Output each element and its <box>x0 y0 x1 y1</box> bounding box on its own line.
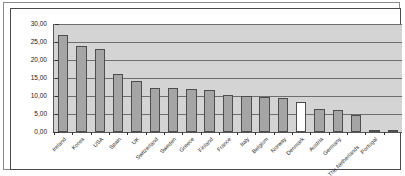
bar-slot <box>237 24 255 132</box>
x-label-slot: Finland <box>201 135 219 176</box>
bar-series <box>54 24 402 132</box>
bar <box>241 96 251 132</box>
bar <box>259 97 269 132</box>
y-tick-label: 0,00 <box>34 129 47 136</box>
y-tick-label: 30,00 <box>31 21 47 28</box>
bar <box>351 115 361 132</box>
x-label-slot: Belgium <box>255 135 273 176</box>
x-label-slot: Denmark <box>292 135 310 176</box>
chart-inner-frame: 30,0025,0020,0015,0010,005,000,00 Irelan… <box>10 8 401 170</box>
bar-slot <box>72 24 90 132</box>
bar <box>204 90 214 132</box>
bar-slot <box>164 24 182 132</box>
x-label-slot: USA <box>91 135 109 176</box>
y-tick-label: 15,00 <box>31 75 47 82</box>
bar-slot <box>219 24 237 132</box>
bar-slot <box>91 24 109 132</box>
bar <box>113 74 123 132</box>
y-tick-label: 10,00 <box>31 93 47 100</box>
bar-slot <box>146 24 164 132</box>
x-axis-labels: IrelandKoreaUSASpainUKSwitzerlandSwedenG… <box>54 135 402 176</box>
x-label-slot: Spain <box>109 135 127 176</box>
bar-slot <box>274 24 292 132</box>
y-tick-label: 5,00 <box>34 111 47 118</box>
x-label-slot: Ireland <box>54 135 72 176</box>
x-label-slot: The Netherlands <box>347 135 365 176</box>
bar <box>76 46 86 132</box>
x-tick-label: Ireland <box>51 136 67 152</box>
bar-slot <box>109 24 127 132</box>
bar <box>314 109 324 132</box>
x-label-slot: Sweden <box>164 135 182 176</box>
y-tick-label: 20,00 <box>31 57 47 64</box>
x-tick-label: Spain <box>108 136 122 150</box>
bar <box>223 95 233 132</box>
bar-slot <box>182 24 200 132</box>
bar <box>58 35 68 132</box>
x-label-slot: Switzerland <box>146 135 164 176</box>
bar <box>186 89 196 132</box>
bar <box>278 98 288 132</box>
x-label-slot: France <box>219 135 237 176</box>
chart-outer-frame: 30,0025,0020,0015,0010,005,000,00 Irelan… <box>3 2 400 170</box>
x-label-slot: Korea <box>72 135 90 176</box>
bar <box>95 49 105 132</box>
bar-slot <box>384 24 402 132</box>
x-label-slot: Italy <box>237 135 255 176</box>
bar-slot <box>255 24 273 132</box>
bar-slot <box>292 24 310 132</box>
x-tick-label: Italy <box>239 136 251 148</box>
bar-slot <box>347 24 365 132</box>
y-tick-label: 25,00 <box>31 39 47 46</box>
x-tick-label: UK <box>131 136 141 146</box>
x-tick-label: USA <box>92 136 104 148</box>
bar-slot <box>127 24 145 132</box>
bar-slot <box>365 24 383 132</box>
bar-slot <box>310 24 328 132</box>
bar-slot <box>201 24 219 132</box>
x-label-slot: Portugal <box>365 135 383 176</box>
y-axis: 30,0025,0020,0015,0010,005,000,00 <box>17 24 51 132</box>
x-label-slot <box>384 135 402 176</box>
bar-slot <box>54 24 72 132</box>
bar <box>333 110 343 132</box>
x-label-slot: Greece <box>182 135 200 176</box>
x-tick-label: Korea <box>71 136 86 151</box>
x-tick-label: France <box>216 136 233 153</box>
bar <box>296 102 306 132</box>
bar-slot <box>329 24 347 132</box>
bar <box>168 88 178 132</box>
bar <box>131 81 141 132</box>
bar <box>150 88 160 132</box>
x-tick-label: Austria <box>307 136 324 153</box>
